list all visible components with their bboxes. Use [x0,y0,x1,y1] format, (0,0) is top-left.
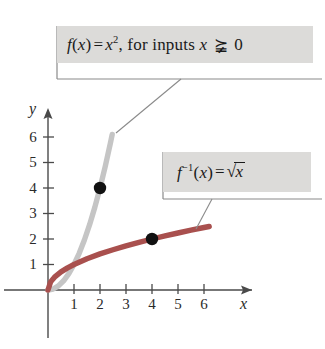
callout-inverse-text: f−1(x)=√x [177,162,245,183]
x-axis-label: x [240,295,247,313]
y-tick-label-6: 6 [25,129,41,146]
x-tick-label-5: 5 [170,296,186,313]
callout-function: f(x)=x2, for inputs x ⪶ 0 [57,26,313,63]
callout-inverse-function: f−1(x)=√x [163,152,311,192]
y-tick-label-2: 2 [25,231,41,248]
y-tick-label-1: 1 [25,256,41,273]
x-tick-label-1: 1 [66,296,82,313]
y-tick-label-5: 5 [25,154,41,171]
x-tick-label-3: 3 [118,296,134,313]
curve-parabola [48,135,112,291]
figure-canvas: f(x)=x2, for inputs x ⪶ 0 f−1(x)=√x y x … [0,0,325,349]
y-tick-label-4: 4 [25,180,41,197]
x-axis-ticks [74,284,204,294]
y-tick-label-3: 3 [25,205,41,222]
callout-function-leader [116,79,181,133]
point-on-sqrt [146,233,158,245]
callout-function-text: f(x)=x2, for inputs x ⪶ 0 [67,34,243,55]
x-tick-label-4: 4 [144,296,160,313]
x-tick-label-6: 6 [196,296,212,313]
y-axis-label: y [29,100,36,118]
x-tick-label-2: 2 [92,296,108,313]
point-on-parabola [94,182,106,194]
curve-sqrt [48,227,209,291]
